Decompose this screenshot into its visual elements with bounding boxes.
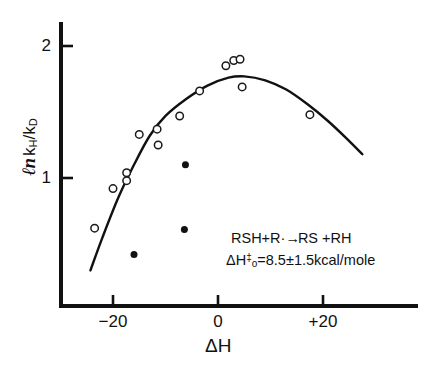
- x-axis-label: ΔH: [205, 335, 231, 357]
- open-data-point: [196, 87, 204, 95]
- filled-data-point: [131, 251, 138, 258]
- y-axis-label-k: k: [20, 147, 39, 156]
- annotation-enthalpy-symbol: ΔH: [226, 252, 246, 268]
- open-data-point: [123, 177, 130, 185]
- filled-data-point: [181, 226, 188, 233]
- annotation-reaction: RSH+R·→RS +RH: [231, 228, 351, 248]
- y-tick-label: 2: [42, 36, 51, 56]
- y-tick-label: 1: [42, 168, 51, 188]
- open-data-point: [238, 83, 246, 91]
- figure-container: ℓnkH/kD −200+20 12 ΔH RSH+R·→RS +RH ΔH‡o…: [0, 0, 433, 371]
- open-data-point: [123, 169, 130, 177]
- open-circle-data-points: [91, 55, 314, 231]
- filled-circle-data-points: [131, 161, 189, 258]
- filled-data-point: [182, 161, 189, 168]
- x-tick-label: −20: [99, 312, 128, 332]
- annotation-enthalpy-value: =8.5±1.5kcal/mole: [257, 252, 375, 268]
- open-data-point: [176, 112, 184, 120]
- annotation-products: RS +RH: [298, 230, 352, 246]
- x-ticks-group: [113, 295, 323, 304]
- open-data-point: [136, 131, 144, 139]
- y-axis-label-sub-h: H: [27, 140, 39, 148]
- y-ticks-group: [63, 46, 73, 178]
- y-axis-label-sub-d: D: [27, 118, 39, 126]
- open-data-point: [306, 111, 314, 119]
- open-data-point: [236, 55, 244, 63]
- open-data-point: [154, 141, 162, 149]
- y-axis-label-container: ℓnkH/kD: [16, 92, 42, 202]
- y-axis-label-slash: /k: [20, 126, 39, 139]
- annotation-enthalpy: ΔH‡o=8.5±1.5kcal/mole: [226, 248, 375, 274]
- open-data-point: [222, 62, 230, 70]
- open-data-point: [153, 125, 161, 133]
- x-tick-label: 0: [213, 312, 222, 332]
- annotation-reactants: RSH+R·: [231, 230, 285, 246]
- open-data-point: [109, 185, 117, 193]
- y-axis-label: ℓnkH/kD: [18, 118, 40, 175]
- x-tick-label: +20: [309, 312, 338, 332]
- y-axis-label-ln: ℓn: [18, 156, 39, 176]
- open-data-point: [91, 224, 99, 232]
- reaction-arrow-icon: →: [285, 230, 298, 246]
